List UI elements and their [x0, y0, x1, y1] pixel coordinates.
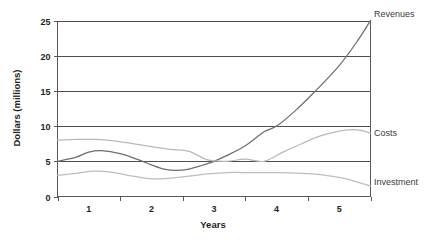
- chart-container: 0510152025 12345 Years Dollars (millions…: [0, 0, 429, 248]
- y-tick-label: 20: [40, 52, 50, 62]
- x-tick-labels: 12345: [86, 204, 341, 214]
- x-tick-label: 4: [274, 204, 279, 214]
- line-chart: 0510152025 12345 Years Dollars (millions…: [0, 0, 429, 248]
- x-tick-label: 1: [86, 204, 91, 214]
- y-axis-title: Dollars (millions): [11, 69, 22, 146]
- series-line-costs: [58, 130, 371, 162]
- y-tick-labels: 0510152025: [40, 17, 50, 203]
- series-line-revenues: [58, 21, 371, 171]
- y-tick-label: 10: [40, 122, 50, 132]
- series-label-costs: Costs: [374, 128, 398, 138]
- y-tick-label: 0: [45, 193, 50, 203]
- x-axis-title: Years: [200, 219, 225, 230]
- x-tick-label: 3: [211, 204, 216, 214]
- series-label-revenues: Revenues: [374, 9, 415, 19]
- y-tick-label: 15: [40, 87, 50, 97]
- y-tick-label: 25: [40, 17, 50, 27]
- y-tick-label: 5: [45, 157, 50, 167]
- series-line-investment: [58, 171, 371, 186]
- series-labels: RevenuesCostsInvestment: [374, 9, 419, 187]
- x-tick-label: 5: [337, 204, 342, 214]
- series-label-investment: Investment: [374, 177, 419, 187]
- x-tick-label: 2: [149, 204, 154, 214]
